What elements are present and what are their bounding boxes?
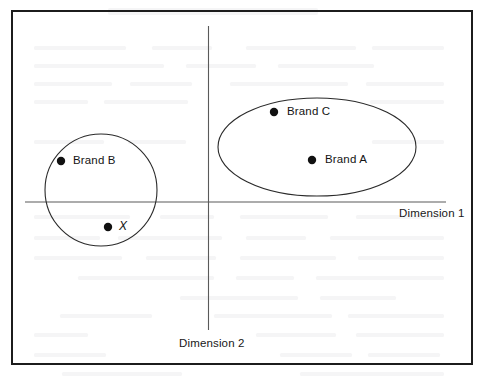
- cluster-circle-left: [45, 134, 157, 246]
- axis-label-dimension-1: Dimension 1: [399, 207, 465, 219]
- point-label-brand-c: Brand C: [287, 105, 330, 117]
- point-marker-brand-c: [270, 108, 278, 116]
- point-marker-brand-b: [57, 157, 65, 165]
- point-label-x: X: [119, 219, 127, 233]
- point-label-brand-b: Brand B: [73, 154, 116, 166]
- point-label-brand-a: Brand A: [325, 153, 367, 165]
- plot-area: [0, 0, 486, 381]
- perceptual-map-figure: Brand C Brand A Brand B X Dimension 1 Di…: [0, 0, 486, 381]
- point-marker-brand-a: [308, 156, 316, 164]
- axis-label-dimension-2: Dimension 2: [179, 337, 245, 349]
- point-marker-x: [104, 223, 112, 231]
